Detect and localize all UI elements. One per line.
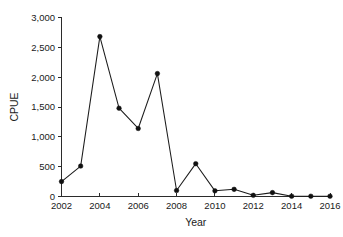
svg-text:1,500: 1,500 xyxy=(31,101,55,112)
cpue-line-chart: 05001,0001,5002,0002,5003,000 2002200420… xyxy=(0,0,343,237)
svg-text:2016: 2016 xyxy=(319,200,340,211)
svg-text:2012: 2012 xyxy=(243,200,264,211)
svg-text:2006: 2006 xyxy=(128,200,149,211)
svg-text:3,000: 3,000 xyxy=(31,12,55,23)
svg-text:2014: 2014 xyxy=(281,200,302,211)
chart-canvas: 05001,0001,5002,0002,5003,000 2002200420… xyxy=(0,0,343,237)
svg-text:2008: 2008 xyxy=(166,200,187,211)
svg-text:2010: 2010 xyxy=(204,200,225,211)
svg-text:2,500: 2,500 xyxy=(31,42,55,53)
svg-text:2004: 2004 xyxy=(89,200,110,211)
svg-text:2002: 2002 xyxy=(51,200,72,211)
svg-text:500: 500 xyxy=(39,161,55,172)
svg-text:2,000: 2,000 xyxy=(31,72,55,83)
y-axis-title: CPUE xyxy=(8,92,20,121)
x-axis-title: Year xyxy=(185,216,207,228)
svg-text:1,000: 1,000 xyxy=(31,131,55,142)
